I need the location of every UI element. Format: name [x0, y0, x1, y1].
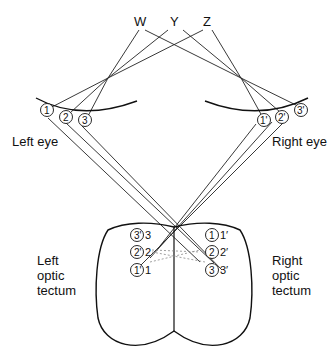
right-tectum-num-1: 1′	[220, 229, 228, 241]
left-eye-label: Left eye	[12, 134, 58, 149]
left-retina-2: 2	[63, 112, 69, 123]
point-label-w: W	[134, 14, 147, 29]
diagram-canvas: W Y Z 1 2 3 1'	[0, 0, 334, 360]
left-tectum-num-3: 3	[145, 229, 151, 241]
left-retina-1: 1	[44, 105, 50, 116]
right-tectum-map: 1 1′ 2 2′ 3 3′	[206, 229, 229, 277]
right-tectum-label-3: tectum	[272, 283, 311, 298]
left-tectum-circle-1: 1'	[134, 265, 142, 276]
right-tectum-num-2: 2′	[220, 246, 228, 258]
left-tectum-label-1: Left	[37, 253, 59, 268]
left-tectum-num-2: 2	[145, 246, 151, 258]
left-tectum-circle-2: 2'	[134, 247, 142, 258]
left-retina-points: 1 2 3	[41, 104, 92, 127]
right-tectum-label-1: Right	[272, 253, 303, 268]
right-eye-label: Right eye	[272, 134, 327, 149]
dashed-correspondence-lines	[150, 250, 205, 262]
left-retina-3: 3	[82, 115, 88, 126]
right-retina-1: 1'	[260, 115, 268, 126]
light-rays	[48, 30, 298, 270]
point-label-z: Z	[203, 14, 211, 29]
right-tectum-label-2: optic	[272, 268, 300, 283]
left-tectum-num-1: 1	[145, 264, 151, 276]
point-label-y: Y	[170, 14, 179, 29]
right-tectum-num-3: 3′	[220, 264, 228, 276]
left-tectum-circle-3: 3'	[134, 230, 142, 241]
left-tectum-label-2: optic	[37, 268, 65, 283]
right-tectum-circle-3: 3	[209, 265, 215, 276]
right-tectum-circle-1: 1	[209, 230, 215, 241]
right-retina-3: 3'	[297, 105, 305, 116]
left-tectum-label-3: tectum	[37, 283, 76, 298]
right-retina-arc	[205, 98, 308, 111]
retinotectal-projection-diagram: W Y Z 1 2 3 1'	[0, 0, 334, 360]
right-retina-2: 2'	[278, 112, 286, 123]
right-tectum-circle-2: 2	[209, 247, 215, 258]
left-tectum-map: 3' 3 2' 2 1' 1	[131, 229, 152, 277]
